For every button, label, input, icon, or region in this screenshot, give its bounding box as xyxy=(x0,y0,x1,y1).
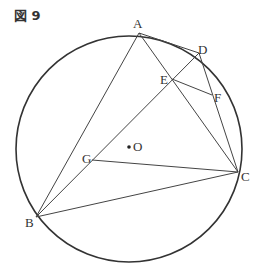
circumcircle xyxy=(16,36,242,262)
label-O: O xyxy=(133,139,142,154)
label-G: G xyxy=(82,151,91,166)
label-C: C xyxy=(241,169,250,184)
label-D: D xyxy=(198,42,207,57)
segment-BC xyxy=(36,172,238,217)
segment-AB xyxy=(36,33,139,217)
geometry-diagram: A D E F O G C B xyxy=(0,0,258,273)
segment-DC xyxy=(199,53,238,172)
label-A: A xyxy=(133,16,143,31)
segments xyxy=(36,33,238,217)
label-F: F xyxy=(214,90,221,105)
segment-GC xyxy=(92,160,238,172)
center-dot xyxy=(127,145,131,149)
segment-DB xyxy=(36,53,199,217)
label-B: B xyxy=(25,215,34,230)
segment-AD xyxy=(139,33,199,53)
label-E: E xyxy=(160,72,168,87)
